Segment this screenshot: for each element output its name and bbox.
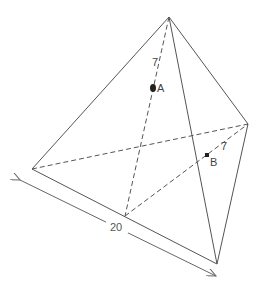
edge-left-front bbox=[32, 169, 217, 264]
point-a-dot bbox=[150, 84, 156, 92]
point-b-label: B bbox=[210, 156, 217, 168]
point-b-dot bbox=[205, 153, 209, 157]
edge-apex-front bbox=[169, 17, 217, 264]
segment-label-apex-a: 7 bbox=[152, 56, 158, 68]
segment-label-right-b: 7 bbox=[221, 140, 227, 152]
point-a-label: A bbox=[157, 82, 165, 94]
hidden-edge-apex-back bbox=[125, 17, 169, 216]
edge-apex-left bbox=[32, 17, 169, 169]
dimension-label: 20 bbox=[110, 221, 122, 233]
edge-apex-right bbox=[169, 17, 248, 124]
hidden-edge-back-right bbox=[125, 124, 248, 216]
tetrahedron-diagram: A B 7 7 20 bbox=[0, 0, 265, 289]
